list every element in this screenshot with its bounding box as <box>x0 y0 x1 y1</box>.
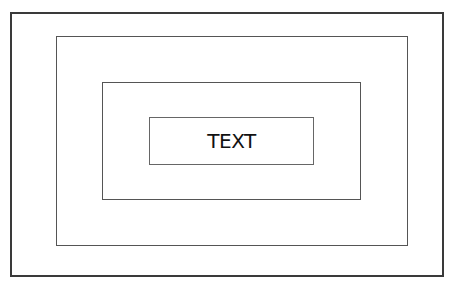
inner-rectangle: TEXT <box>149 117 314 165</box>
center-label: TEXT <box>207 129 255 153</box>
